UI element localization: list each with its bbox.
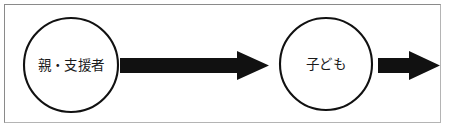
node-parent-supporter-label: 親・支援者: [38, 57, 104, 73]
node-child[interactable]: 子ども: [280, 18, 372, 110]
arrow-child-outward: [378, 51, 440, 80]
arrow-parent-to-child-shape: [120, 51, 269, 80]
diagram-svg: 親・支援者 子ども: [0, 0, 449, 134]
node-parent-supporter[interactable]: 親・支援者: [24, 18, 118, 112]
arrow-child-outward-shape: [378, 51, 440, 80]
arrow-parent-to-child: [120, 51, 269, 80]
node-child-label: 子ども: [306, 56, 347, 72]
diagram-canvas: 親・支援者 子ども: [0, 0, 449, 134]
figure-root: 親・支援者 子ども: [0, 0, 449, 134]
